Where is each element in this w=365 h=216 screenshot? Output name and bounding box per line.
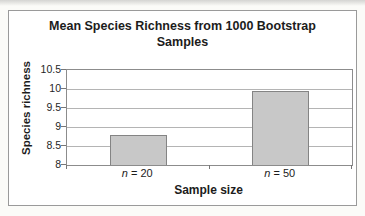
x-axis-title: Sample size — [66, 183, 351, 197]
y-tick-label: 10 — [9, 82, 61, 95]
y-tick-label: 9.5 — [9, 101, 61, 114]
bar-n=50 — [252, 91, 309, 165]
category-label: n = 20 — [122, 167, 153, 179]
x-tick-mark — [66, 165, 67, 169]
bar-n=20 — [110, 135, 167, 165]
x-tick-mark — [351, 165, 352, 169]
scan-edge-artifact — [0, 0, 365, 6]
y-tick-mark — [61, 88, 66, 89]
category-label: n = 50 — [264, 167, 295, 179]
y-tick-mark — [61, 145, 66, 146]
chart-title: Mean Species Richness from 1000 Bootstra… — [31, 19, 335, 50]
plot-area — [66, 69, 353, 166]
y-tick-mark — [61, 69, 66, 70]
y-tick-mark — [61, 107, 66, 108]
y-tick-mark — [61, 126, 66, 127]
gridline — [67, 108, 352, 109]
chart: Mean Species Richness from 1000 Bootstra… — [8, 10, 357, 206]
y-tick-label: 9 — [9, 120, 61, 133]
y-tick-label: 10.5 — [9, 63, 61, 76]
gridline — [67, 127, 352, 128]
y-tick-label: 8.5 — [9, 139, 61, 152]
gridline — [67, 89, 352, 90]
x-tick-mark — [209, 165, 210, 169]
y-tick-label: 8 — [9, 158, 61, 171]
